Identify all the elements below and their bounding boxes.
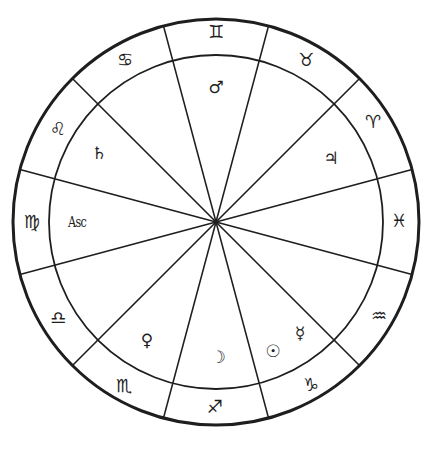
sign-taurus-icon: ♉ xyxy=(298,51,314,69)
sign-pisces-icon: ♓ xyxy=(391,212,407,230)
sign-libra-icon: ♎ xyxy=(50,309,66,327)
sign-aquarius-icon: ♒ xyxy=(371,307,387,325)
planet-mars-icon: ♂ xyxy=(208,79,223,96)
sign-cancer-icon: ♋ xyxy=(117,51,133,69)
sign-scorpio-icon: ♏ xyxy=(116,377,132,395)
sign-capricorn-icon: ♑ xyxy=(303,376,319,394)
sign-gemini-icon: ♊ xyxy=(208,23,224,41)
planet-venus-icon: ♀ xyxy=(141,332,153,349)
chart-wheel xyxy=(0,0,433,458)
astrological-chart: ♊ ♉ ♈ ♓ ♒ ♑ ♐ ♏ ♎ ♍ ♌ ♋ ♂ ♃ ♄ ♀ ☽ ☉ ☿ As… xyxy=(0,0,433,458)
sign-leo-icon: ♌ xyxy=(50,120,66,138)
planet-mercury-icon: ☿ xyxy=(295,325,305,342)
ascendant-label: Asc xyxy=(68,215,86,230)
sign-aries-icon: ♈ xyxy=(365,113,381,131)
sign-virgo-icon: ♍ xyxy=(24,213,40,231)
planet-sun-icon: ☉ xyxy=(265,343,280,360)
planet-jupiter-icon: ♃ xyxy=(323,150,338,167)
sign-sagittarius-icon: ♐ xyxy=(207,398,223,416)
planet-saturn-icon: ♄ xyxy=(91,145,106,162)
planet-moon-icon: ☽ xyxy=(210,349,225,366)
center-point xyxy=(214,220,219,225)
